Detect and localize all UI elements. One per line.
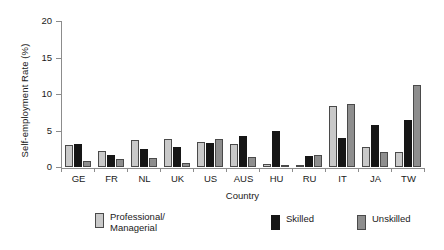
x-axis-tick <box>424 168 425 172</box>
x-axis-tick <box>61 168 62 172</box>
bar-group <box>395 21 422 167</box>
bar-group <box>131 21 158 167</box>
bar-group <box>362 21 389 167</box>
x-axis-tick <box>160 168 161 172</box>
x-axis-category-label: JA <box>370 173 381 184</box>
bar-group-bars <box>131 21 158 167</box>
bar <box>347 104 355 168</box>
bar <box>371 125 379 167</box>
legend-swatch-icon-skilled <box>271 215 280 230</box>
y-axis-tick-label: 5 <box>47 125 52 136</box>
bar <box>140 149 148 167</box>
x-axis-category-label: AUS <box>234 173 254 184</box>
x-axis-tick <box>259 168 260 172</box>
y-axis-tick: 20 <box>56 21 62 22</box>
bar-group <box>230 21 257 167</box>
bar-group <box>263 21 290 167</box>
bar-group-bars <box>98 21 125 167</box>
y-axis-tick-label: 20 <box>41 15 52 26</box>
legend-item-unskilled: Unskilled <box>357 214 411 230</box>
bar <box>164 139 172 167</box>
bar-group-bars <box>362 21 389 167</box>
bar-group-bars <box>164 21 191 167</box>
bar <box>248 157 256 167</box>
x-axis-category-label: FR <box>105 173 118 184</box>
bar <box>239 136 247 167</box>
bar-group-bars <box>263 21 290 167</box>
x-axis-category-label: IT <box>338 173 346 184</box>
chart-legend: Professional/ Managerial Skilled Unskill… <box>95 212 425 244</box>
x-axis-tick <box>193 168 194 172</box>
y-axis-tick: 10 <box>56 94 62 95</box>
legend-item-professional-managerial: Professional/ Managerial <box>95 212 165 233</box>
bar <box>272 131 280 168</box>
x-axis-line <box>61 168 424 169</box>
bar <box>116 159 124 167</box>
bar <box>338 138 346 167</box>
legend-label-unskilled: Unskilled <box>372 214 411 225</box>
bar-group-bars <box>296 21 323 167</box>
bar <box>314 155 322 167</box>
legend-swatch-icon-professional-managerial <box>95 213 104 228</box>
bar <box>182 163 190 167</box>
bar-group-bars <box>329 21 356 167</box>
bar-group <box>329 21 356 167</box>
bar <box>413 85 421 167</box>
bar <box>173 147 181 167</box>
x-axis-title: Country <box>61 190 424 201</box>
x-axis-tick <box>292 168 293 172</box>
y-axis-line <box>61 22 62 169</box>
bar <box>131 140 139 167</box>
y-axis-tick-label: 0 <box>47 161 52 172</box>
x-axis-category-label: RU <box>303 173 317 184</box>
legend-label-professional-managerial: Professional/ Managerial <box>110 212 165 233</box>
x-axis-category-label: GE <box>72 173 86 184</box>
bar <box>380 152 388 167</box>
bar <box>362 147 370 167</box>
bar <box>230 144 238 167</box>
legend-item-skilled: Skilled <box>271 214 314 230</box>
bar-group-bars <box>395 21 422 167</box>
bar <box>296 165 304 167</box>
y-axis-tick: 15 <box>56 58 62 59</box>
x-axis-tick <box>127 168 128 172</box>
x-axis-tick <box>226 168 227 172</box>
bar-group <box>65 21 92 167</box>
bar <box>329 106 337 167</box>
bar <box>98 151 106 167</box>
bar-group-bars <box>230 21 257 167</box>
bar <box>215 139 223 167</box>
y-axis-title: Self-employment Rate (%) <box>19 16 30 186</box>
x-axis-tick <box>325 168 326 172</box>
bar-group-bars <box>65 21 92 167</box>
bar <box>149 158 157 167</box>
y-axis-tick: 5 <box>56 131 62 132</box>
x-axis-tick <box>391 168 392 172</box>
bar-group <box>296 21 323 167</box>
bar-group-bars <box>197 21 224 167</box>
y-axis-tick-label: 10 <box>41 88 52 99</box>
bar <box>404 120 412 167</box>
bar <box>197 142 205 167</box>
x-axis-category-label: US <box>204 173 217 184</box>
bar <box>305 156 313 167</box>
bar <box>395 152 403 167</box>
bar <box>65 145 73 167</box>
x-axis-category-label: NL <box>138 173 150 184</box>
bar-group <box>164 21 191 167</box>
bar-group <box>98 21 125 167</box>
bar-group <box>197 21 224 167</box>
chart-figure: Self-employment Rate (%) 05101520 GEFRNL… <box>0 0 444 250</box>
x-axis-category-label: TW <box>401 173 416 184</box>
bar <box>281 165 289 167</box>
legend-swatch-icon-unskilled <box>357 215 366 230</box>
bar <box>74 144 82 167</box>
bar <box>107 155 115 167</box>
bar <box>83 161 91 167</box>
x-axis-tick <box>94 168 95 172</box>
x-axis-category-label: HU <box>270 173 284 184</box>
x-axis-tick <box>358 168 359 172</box>
bar <box>263 164 271 167</box>
bar <box>206 143 214 167</box>
y-axis-tick-label: 15 <box>41 52 52 63</box>
